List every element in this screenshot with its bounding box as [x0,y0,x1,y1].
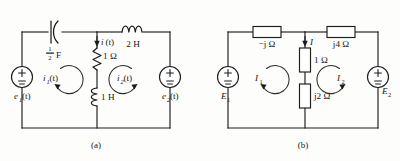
source-E2: E 2 [368,67,392,98]
circuit-a-group: 1 2 F 2 H i (t) 1 Ω [12,21,181,150]
source-e2: e 2 (t) [160,67,181,103]
mesh-current-I2-arrow: I 2 [317,66,346,94]
impedance-1ohm-box [300,48,311,72]
resistor-1ohm-symbol [93,48,101,70]
mesh-current-i1-arg: (t) [50,73,59,83]
mesh-current-I1-arc [264,66,290,94]
mesh-current-I1-subscript: 1 [260,78,263,85]
mesh-current-I1-head [260,84,266,90]
source-e2-arg: (t) [170,91,179,101]
mesh-current-I2-symbol: I [336,73,341,83]
circuit-diagram-canvas: 1 2 F 2 H i (t) 1 Ω [0,0,400,161]
source-E1-label: E 1 [220,91,230,103]
caption-a: (a) [91,140,101,150]
capacitor-label: 1 2 F [47,45,62,61]
source-e1-symbol: e [14,91,18,101]
mesh-current-I2-subscript: 2 [342,78,345,85]
source-E2-subscript: 2 [388,91,391,98]
inductor-2h-coil [122,26,142,32]
figure-root: 1 2 F 2 H i (t) 1 Ω [0,0,400,161]
impedance-j2-label: j2 Ω [313,91,330,101]
source-e1-label: e 1 (t) [14,91,31,103]
branch-current-i-arrow [94,36,99,47]
impedance-neg-j-box [253,27,281,38]
inductor-2h-label: 2 H [126,39,140,49]
capacitor-plate-curved [54,21,59,43]
source-e1: e 1 (t) [12,67,33,103]
mesh-current-i1-arrow: i 1 (t) [43,66,83,94]
capacitor-symbol [51,21,58,43]
source-e2-symbol: e [162,91,166,101]
impedance-neg-j-label: −j Ω [259,39,276,49]
source-E1-symbol: E [220,91,227,101]
resistor-1ohm-zigzag [93,48,101,70]
impedance-1ohm-label: 1 Ω [314,55,328,65]
inductor-2h-symbol [122,26,142,32]
impedance-j2-box [300,84,311,108]
branch-current-I-arrow: I [302,36,314,47]
source-E2-label: E 2 [381,86,391,98]
inductor-1h-label: 1 H [101,92,115,102]
inductor-1h-coil [91,88,97,106]
mesh-current-i2-head [131,84,137,90]
mesh-current-i2-arrow: i 2 (t) [109,66,138,94]
mesh-current-i2-label: i 2 (t) [117,73,132,85]
source-e1-arg: (t) [22,91,31,101]
mesh-current-i1-head [54,84,60,90]
resistor-1ohm-label: 1 Ω [103,51,117,61]
branch-current-i-head [94,41,99,47]
mesh-current-I1-label: I 1 [254,73,263,85]
branch-current-i-arg: (t) [106,37,115,47]
source-e2-label: e 2 (t) [162,91,179,103]
capacitor-unit: F [56,50,61,60]
mesh-current-I1-arrow: I 1 [254,66,289,94]
mesh-current-I2-head [339,84,345,90]
mesh-current-I1-symbol: I [254,73,259,83]
source-E2-symbol: E [381,86,388,96]
impedance-j4-label: j4 Ω [332,39,349,49]
capacitor-value-denominator: 2 [48,54,51,61]
branch-current-I-symbol: I [309,37,314,47]
impedance-j4-box [327,27,355,38]
mesh-current-i1-arc [58,66,84,94]
circuit-b-group: −j Ω j4 Ω I 1 Ω j2 Ω E [218,27,392,151]
capacitor-value-numerator: 1 [48,45,51,52]
mesh-current-i1-label: i 1 (t) [43,73,58,85]
inductor-1h-symbol [91,88,97,106]
branch-current-I-head [302,41,307,47]
mesh-current-i2-arg: (t) [124,73,133,83]
caption-b: (b) [298,140,309,150]
source-E1: E 1 [218,67,239,103]
branch-current-i-label: i (t) [101,37,114,47]
mesh-current-I2-label: I 2 [336,73,345,85]
source-E1-subscript: 1 [227,96,230,103]
branch-current-i-symbol: i [101,37,104,47]
